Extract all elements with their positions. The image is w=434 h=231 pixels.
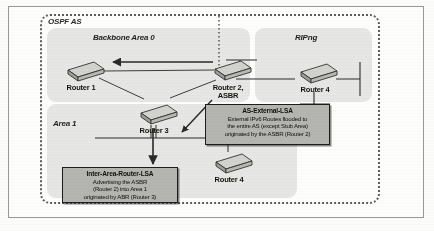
callout-as-external-lsa: AS-External-LSA External IPv6 Routes flo…: [205, 104, 330, 145]
figure-root: OSPF AS Backbone Area 0 RIPng Area 1: [0, 0, 434, 231]
as-external-lsa-line-2: the entire AS (except Stub Area): [209, 122, 326, 129]
router3-label: Router 3: [124, 127, 184, 136]
inter-area-router-lsa-title: Inter-Area-Router-LSA: [66, 170, 174, 178]
link-router1-router2: [103, 70, 214, 71]
router-icon-router1[interactable]: [58, 56, 104, 86]
callout-inter-area-router-lsa: Inter-Area-Router-LSA Advertising the AS…: [62, 167, 178, 203]
router2-label-line2: ASBR: [197, 92, 259, 101]
as-external-lsa-title: AS-External-LSA: [209, 107, 326, 115]
router-icon-router3-abr[interactable]: [131, 99, 177, 129]
inter-area-router-lsa-line-3: originated by ABR (Router 3): [66, 193, 174, 200]
inter-area-router-lsa-line-1: Advertising the ASBR: [66, 178, 174, 185]
router1-label: Router 1: [51, 84, 111, 93]
as-external-lsa-line-3: originated by the ASBR (Router 2): [209, 130, 326, 137]
router-icon-router2-asbr[interactable]: [205, 55, 251, 85]
as-external-lsa-line-1: External IPv6 Routes flooded to: [209, 115, 326, 122]
inter-area-router-lsa-line-2: (Router 2) into Area 1: [66, 185, 174, 192]
router4-area1-label: Router 4: [199, 176, 259, 185]
router-icon-router4-area1[interactable]: [206, 148, 252, 178]
router-icon-router4-ripng[interactable]: [291, 58, 337, 88]
router4-ripng-label: Router 4: [285, 86, 345, 95]
